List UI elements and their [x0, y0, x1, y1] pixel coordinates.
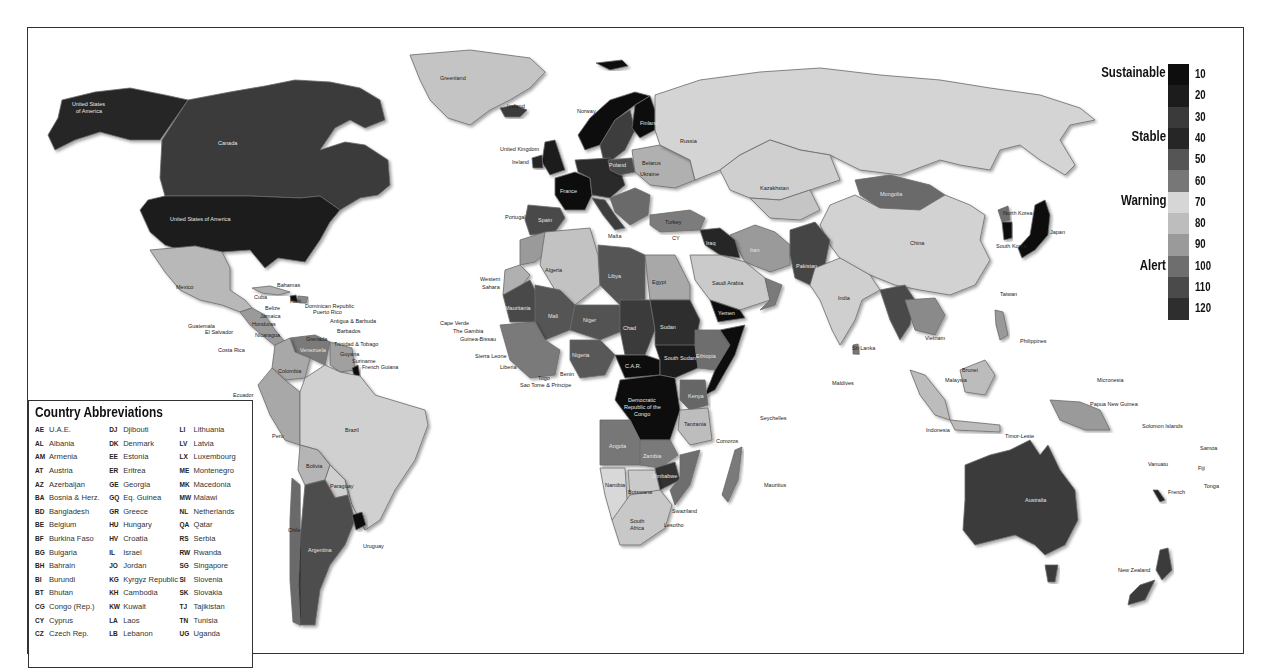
- legend-tick-label: 90: [1195, 237, 1206, 251]
- label-comoros: Comoros: [716, 438, 739, 444]
- country-ireland[interactable]: [532, 155, 543, 168]
- label-brazil: Brazil: [345, 427, 359, 433]
- legend: Sustainable Stable Warning Alert 1020304…: [1096, 64, 1236, 324]
- label-australia: Australia: [1025, 497, 1047, 503]
- abbreviation-country-name: Laos: [123, 616, 139, 625]
- country-uk[interactable]: [542, 140, 565, 175]
- label-egypt: Egypt: [652, 279, 667, 285]
- abbreviation-row: EREritrea: [109, 464, 179, 478]
- abbreviation-code: AM: [35, 453, 49, 460]
- label-belarus: Belarus: [642, 160, 661, 166]
- country-philippines[interactable]: [995, 310, 1008, 340]
- country-madagascar[interactable]: [722, 447, 742, 502]
- country-chile[interactable]: [290, 478, 300, 625]
- label-tonga: Tonga: [1204, 483, 1220, 489]
- abbreviation-code: UG: [179, 630, 193, 637]
- label-trinidad: Trinidad & Tobago: [334, 341, 378, 347]
- abbreviation-row: DJDjibouti: [109, 423, 179, 437]
- country-new-caledonia[interactable]: [1153, 490, 1165, 502]
- abbreviation-code: DK: [109, 440, 123, 447]
- abbreviation-code: MK: [179, 481, 193, 488]
- abbreviation-country-name: Lithuania: [193, 425, 224, 434]
- abbreviation-code: SK: [179, 589, 193, 596]
- abbreviation-country-name: Luxembourg: [193, 452, 235, 461]
- abbreviation-country-name: Kyrgyz Republic: [123, 575, 178, 584]
- abbreviation-country-name: Armenia: [49, 452, 77, 461]
- country-egypt[interactable]: [645, 255, 690, 300]
- country-svalbard[interactable]: [596, 60, 628, 70]
- label-portugal: Portugal: [505, 214, 526, 220]
- abbreviation-country-name: Austria: [49, 466, 73, 475]
- country-south-sudan[interactable]: [655, 345, 698, 378]
- label-seychelles: Seychelles: [760, 415, 787, 421]
- abbreviation-country-name: Slovakia: [193, 588, 222, 597]
- country-russia[interactable]: [655, 68, 1095, 180]
- country-libya[interactable]: [598, 245, 645, 305]
- label-belize: Belize: [265, 305, 280, 311]
- legend-tick-label: 120: [1195, 301, 1211, 315]
- abbreviation-row: AMArmenia: [35, 450, 109, 464]
- abbreviation-code: LB: [109, 630, 123, 637]
- abbreviation-country-name: Rwanda: [193, 548, 221, 557]
- country-australia[interactable]: [963, 440, 1078, 555]
- label-french-guiana: French Guiana: [362, 364, 399, 370]
- label-brunei: Brunei: [962, 367, 978, 373]
- country-java[interactable]: [950, 420, 1000, 432]
- abbreviation-code: SG: [179, 562, 193, 569]
- abbreviation-country-name: Uganda: [193, 629, 220, 638]
- abbreviation-country-name: Bhutan: [49, 588, 73, 597]
- label-western-sahara-2: Sahara: [482, 284, 501, 290]
- label-liberia: Liberia: [500, 364, 517, 370]
- abbreviation-country-name: Malawi: [193, 493, 217, 502]
- country-canada[interactable]: [160, 80, 390, 210]
- abbreviation-row: HVCroatia: [109, 532, 179, 546]
- abbreviation-code: LV: [179, 440, 193, 447]
- abbreviation-row: LXLuxembourg: [179, 450, 246, 464]
- country-japan[interactable]: [1018, 200, 1050, 258]
- label-spain: Spain: [538, 217, 552, 223]
- country-nigeria[interactable]: [570, 340, 615, 378]
- country-greenland[interactable]: [410, 50, 545, 125]
- label-haiti: Haiti: [290, 298, 301, 304]
- abbreviation-row: MEMontenegro: [179, 464, 246, 478]
- abbreviation-country-name: Lebanon: [123, 629, 153, 638]
- label-png: Papua New Guinea: [1090, 401, 1139, 407]
- label-malta: Malta: [608, 233, 622, 239]
- abbreviation-row: TNTunisia: [179, 613, 246, 627]
- legend-swatch: [1168, 192, 1189, 213]
- label-paraguay: Paraguay: [330, 483, 354, 489]
- country-new-zealand-south[interactable]: [1128, 580, 1155, 605]
- label-yemen: Yemen: [718, 310, 735, 316]
- country-new-zealand-north[interactable]: [1156, 548, 1172, 580]
- label-iran: Iran: [750, 247, 759, 253]
- country-sumatra[interactable]: [910, 370, 950, 420]
- abbreviation-row: LVLatvia: [179, 437, 246, 451]
- abbreviation-row: KHCambodia: [109, 586, 179, 600]
- label-ireland: Ireland: [512, 159, 529, 165]
- label-niger: Niger: [583, 317, 596, 323]
- country-korea-south[interactable]: [1002, 222, 1012, 240]
- abbreviation-country-name: Bosnia & Herz.: [49, 493, 100, 502]
- abbreviation-country-name: Burkina Faso: [49, 534, 94, 543]
- country-mexico[interactable]: [150, 246, 252, 312]
- legend-tick-label: 100: [1195, 259, 1211, 273]
- country-tasmania[interactable]: [1045, 565, 1058, 582]
- abbreviation-code: CG: [35, 603, 49, 610]
- legend-swatch: [1168, 107, 1189, 128]
- label-russia: Russia: [680, 138, 698, 144]
- country-niger[interactable]: [570, 305, 625, 340]
- abbreviation-row: BABosnia & Herz.: [35, 491, 109, 505]
- legend-tick-label: 50: [1195, 152, 1206, 166]
- abbreviation-code: LA: [109, 617, 123, 624]
- country-indochina[interactable]: [905, 298, 945, 335]
- label-mali: Mali: [548, 313, 558, 319]
- label-maldives: Maldives: [832, 380, 854, 386]
- label-grenada: Grenada: [306, 336, 328, 342]
- abbreviation-country-name: Kuwait: [123, 602, 146, 611]
- legend-tick-label: 60: [1195, 174, 1206, 188]
- label-vanuatu: Vanuatu: [1148, 461, 1168, 467]
- label-timor: Timor-Leste: [1005, 433, 1034, 439]
- abbreviation-country-name: Qatar: [193, 520, 212, 529]
- abbreviation-row: BEBelgium: [35, 518, 109, 532]
- label-sri-lanka: Sri Lanka: [852, 345, 876, 351]
